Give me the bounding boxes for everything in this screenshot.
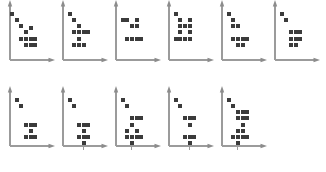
data-point <box>245 110 249 114</box>
data-point <box>15 18 19 22</box>
data-point <box>68 98 72 102</box>
data-point <box>130 37 134 41</box>
data-point <box>33 123 37 127</box>
data-point <box>227 98 231 102</box>
data-point <box>178 30 182 34</box>
data-point <box>125 104 129 108</box>
data-point <box>130 135 134 139</box>
data-point <box>236 24 240 28</box>
data-point <box>174 37 178 41</box>
data-point <box>192 135 196 139</box>
data-point <box>77 135 81 139</box>
data-point <box>86 135 90 139</box>
data-point <box>284 18 288 22</box>
y-axis-arrowhead-icon <box>61 0 65 7</box>
data-point <box>135 18 139 22</box>
data-point <box>24 43 28 47</box>
data-point <box>188 141 192 145</box>
y-axis-arrowhead-icon <box>8 86 12 93</box>
data-point <box>125 37 129 41</box>
data-point <box>298 30 302 34</box>
data-point <box>10 12 14 16</box>
data-point <box>245 135 249 139</box>
data-point <box>174 98 178 102</box>
x-axis-arrowhead-icon <box>102 144 109 148</box>
data-point <box>245 116 249 120</box>
data-point <box>139 116 143 120</box>
data-point <box>289 30 293 34</box>
data-point <box>130 141 134 145</box>
data-point <box>125 18 129 22</box>
data-point <box>24 123 28 127</box>
data-point <box>241 43 245 47</box>
x-axis-arrowhead-icon <box>102 58 109 62</box>
scatter-panel <box>269 0 322 72</box>
scatter-panel <box>216 86 269 158</box>
data-point <box>298 37 302 41</box>
data-point <box>29 129 33 133</box>
data-point <box>29 135 33 139</box>
x-axis-arrowhead-icon <box>314 58 321 62</box>
data-point <box>130 24 134 28</box>
scatter-panel <box>110 86 163 158</box>
dot-plot-figure-grid <box>0 0 326 172</box>
data-point <box>82 30 86 34</box>
scatter-panel <box>57 0 110 72</box>
scatter-panel <box>4 0 57 72</box>
data-point <box>77 37 81 41</box>
data-point <box>121 18 125 22</box>
data-point <box>178 104 182 108</box>
data-point <box>77 123 81 127</box>
data-point <box>29 43 33 47</box>
y-axis-arrowhead-icon <box>8 0 12 7</box>
data-point <box>183 37 187 41</box>
data-point <box>86 123 90 127</box>
data-point <box>72 30 76 34</box>
data-point <box>72 43 76 47</box>
scatter-panel <box>163 0 216 72</box>
data-point <box>29 123 33 127</box>
y-axis-arrowhead-icon <box>61 86 65 93</box>
data-point <box>82 135 86 139</box>
scatter-panel <box>57 86 110 158</box>
data-point <box>231 37 235 41</box>
y-axis-arrowhead-icon <box>220 86 224 93</box>
data-point <box>241 123 245 127</box>
data-point <box>72 104 76 108</box>
data-point <box>77 30 81 34</box>
data-point <box>24 135 28 139</box>
data-point <box>231 24 235 28</box>
data-point <box>192 116 196 120</box>
data-point <box>188 30 192 34</box>
data-point <box>236 141 240 145</box>
data-point <box>231 104 235 108</box>
data-point <box>294 37 298 41</box>
data-point <box>135 116 139 120</box>
data-point <box>289 43 293 47</box>
data-point <box>183 24 187 28</box>
y-axis-arrowhead-icon <box>114 86 118 93</box>
data-point <box>236 43 240 47</box>
data-point <box>174 12 178 16</box>
x-axis-arrowhead-icon <box>49 58 56 62</box>
data-point <box>135 37 139 41</box>
scatter-panel <box>4 86 57 158</box>
data-point <box>188 123 192 127</box>
data-point <box>178 37 182 41</box>
data-point <box>236 129 240 133</box>
y-axis-arrowhead-icon <box>167 86 171 93</box>
data-point <box>135 135 139 139</box>
data-point <box>241 116 245 120</box>
data-point <box>125 129 129 133</box>
x-axis-arrowhead-icon <box>155 58 162 62</box>
data-point <box>86 30 90 34</box>
data-point <box>236 37 240 41</box>
x-axis-arrowhead-icon <box>49 144 56 148</box>
data-point <box>241 37 245 41</box>
data-point <box>77 24 81 28</box>
data-point <box>241 110 245 114</box>
data-point <box>294 30 298 34</box>
data-point <box>188 24 192 28</box>
data-point <box>227 12 231 16</box>
data-point <box>135 129 139 133</box>
